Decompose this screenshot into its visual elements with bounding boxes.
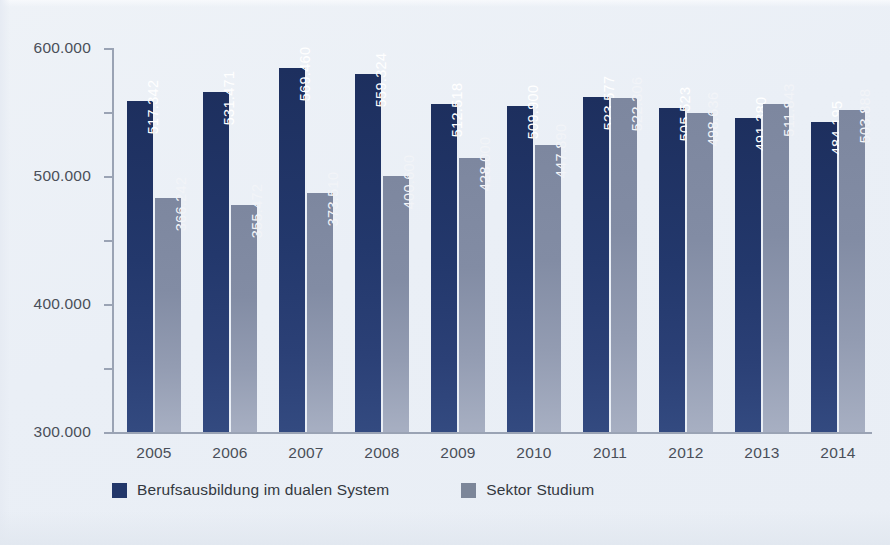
bar-value-label: 522.306 [624, 76, 650, 131]
bar-value-label: 509.900 [520, 84, 546, 139]
x-tick-label: 2006 [203, 444, 257, 462]
plot-area: 0100.000200.000300.000400.000500.000600.… [112, 48, 872, 432]
y-axis-line [112, 48, 114, 432]
bar-primary: 484.195 [811, 122, 837, 432]
x-tick-label: 2010 [507, 444, 561, 462]
y-tick-label: 600.000 [34, 39, 91, 57]
y-tick-mark: 100.000 [104, 368, 112, 370]
bar-value-label: 517.342 [140, 80, 166, 135]
chart-screenshot: 0100.000200.000300.000400.000500.000600.… [0, 0, 890, 545]
bar-value-label: 511.843 [776, 84, 802, 137]
chart-legend: Berufsausbildung im dualen System Sektor… [112, 481, 594, 499]
bar-secondary: 366.242 [155, 198, 181, 432]
bar-value-label: 512.518 [444, 83, 470, 138]
bar-value-label: 400.600 [396, 154, 422, 209]
bar-group: 505.523498.636 [659, 48, 713, 432]
bar-secondary: 355.472 [231, 205, 257, 433]
paper-edge-top [0, 0, 890, 7]
y-tick-mark: 400.000 [104, 176, 112, 178]
bar-secondary: 522.306 [611, 98, 637, 432]
bar-secondary: 511.843 [763, 104, 789, 432]
bar-primary: 512.518 [431, 104, 457, 432]
bar-primary: 559.324 [355, 74, 381, 432]
y-tick-label: 400.000 [34, 295, 91, 313]
bar-value-label: 569.460 [292, 46, 318, 101]
bar-primary: 517.342 [127, 101, 153, 432]
bar-primary: 491.380 [735, 118, 761, 432]
x-tick-label: 2005 [127, 444, 181, 462]
y-tick-mark: 300.000 [104, 240, 112, 242]
bar-primary: 569.460 [279, 68, 305, 432]
bar-value-label: 428.000 [472, 137, 498, 192]
y-tick-label: 500.000 [34, 167, 91, 185]
bar-group: 484.195503.888 [811, 48, 865, 432]
bar-group: 509.900447.890 [507, 48, 561, 432]
bar-primary: 523.577 [583, 97, 609, 432]
bar-value-label: 366.242 [168, 176, 194, 231]
bar-secondary: 373.510 [307, 193, 333, 432]
x-tick-label: 2008 [355, 444, 409, 462]
bar-primary: 509.900 [507, 106, 533, 432]
bar-group: 517.342366.242 [127, 48, 181, 432]
x-tick-label: 2009 [431, 444, 485, 462]
legend-label-primary: Berufsausbildung im dualen System [137, 481, 389, 499]
legend-label-secondary: Sektor Studium [486, 481, 594, 499]
bar-secondary: 498.636 [687, 113, 713, 432]
bar-secondary: 428.000 [459, 158, 485, 432]
bar-value-label: 447.890 [548, 124, 574, 179]
paper-edge-left [0, 0, 10, 545]
bar-primary: 505.523 [659, 108, 685, 432]
bar-group: 559.324400.600 [355, 48, 409, 432]
x-tick-label: 2011 [583, 444, 637, 462]
bar-value-label: 373.510 [320, 172, 346, 227]
bar-group: 512.518428.000 [431, 48, 485, 432]
y-tick-mark: 600.000 [104, 48, 112, 50]
bar-value-label: 559.324 [368, 53, 394, 108]
y-tick-mark: 500.000 [104, 112, 112, 114]
legend-item-primary: Berufsausbildung im dualen System [112, 481, 389, 499]
x-tick-label: 2007 [279, 444, 333, 462]
legend-item-secondary: Sektor Studium [461, 481, 594, 499]
x-tick-label: 2012 [659, 444, 713, 462]
bar-group: 523.577522.306 [583, 48, 637, 432]
y-tick-mark: 0 [104, 432, 112, 434]
legend-swatch-secondary [461, 483, 476, 498]
bar-group: 569.460373.510 [279, 48, 333, 432]
bar-group: 531.471355.472 [203, 48, 257, 432]
bar-value-label: 355.472 [244, 183, 270, 238]
bar-primary: 531.471 [203, 92, 229, 432]
x-tick-label: 2013 [735, 444, 789, 462]
bar-secondary: 400.600 [383, 176, 409, 432]
bar-value-label: 531.471 [216, 71, 242, 126]
bar-group: 491.380511.843 [735, 48, 789, 432]
bar-value-label: 503.888 [852, 88, 878, 143]
bar-secondary: 447.890 [535, 145, 561, 432]
bar-secondary: 503.888 [839, 110, 865, 432]
legend-swatch-primary [112, 483, 127, 498]
paper-edge-bottom [0, 511, 890, 545]
y-tick-label: 300.000 [34, 423, 91, 441]
x-tick-label: 2014 [811, 444, 865, 462]
x-axis-line [112, 432, 872, 434]
y-tick-mark: 200.000 [104, 304, 112, 306]
bar-value-label: 498.636 [700, 92, 726, 147]
